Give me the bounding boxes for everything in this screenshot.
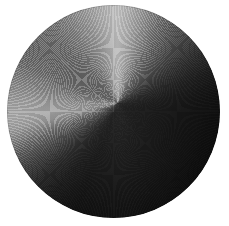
metal-disc bbox=[7, 5, 220, 218]
image-canvas bbox=[0, 0, 229, 226]
disc-rim-edge bbox=[7, 5, 220, 218]
